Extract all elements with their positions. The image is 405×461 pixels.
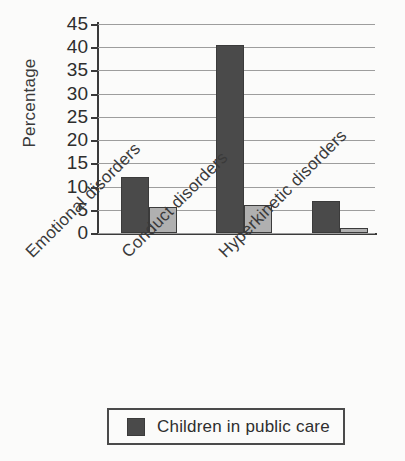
y-tick-mark-45 <box>91 24 98 26</box>
y-tick-label-45: 45 <box>50 14 88 33</box>
y-tick-mark-20 <box>91 140 98 142</box>
y-tick-label-25: 25 <box>50 107 88 126</box>
y-tick-mark-30 <box>91 94 98 96</box>
y-axis-title: Percentage <box>20 43 40 163</box>
y-tick-mark-35 <box>91 70 98 72</box>
y-tick-mark-0 <box>91 233 98 235</box>
chart-legend: Children in public care <box>107 408 345 445</box>
y-tick-label-40: 40 <box>50 37 88 56</box>
y-tick-label-20: 20 <box>50 130 88 149</box>
y-tick-label-15: 15 <box>50 153 88 172</box>
y-tick-mark-15 <box>91 163 98 165</box>
y-tick-mark-25 <box>91 117 98 119</box>
bar-series1-group3 <box>312 201 340 234</box>
bar-series1-group2 <box>216 45 244 233</box>
legend-swatch-children-in-public-care <box>127 418 145 436</box>
y-tick-mark-5 <box>91 210 98 212</box>
y-tick-label-35: 35 <box>50 60 88 79</box>
gridline-45 <box>98 24 375 25</box>
bar-series2-group3 <box>340 228 368 233</box>
legend-label-children-in-public-care: Children in public care <box>157 417 330 437</box>
y-tick-label-30: 30 <box>50 84 88 103</box>
bar-chart: Percentage 454035302520151050 Emotional … <box>0 0 405 461</box>
y-tick-mark-40 <box>91 47 98 49</box>
y-tick-mark-10 <box>91 187 98 189</box>
